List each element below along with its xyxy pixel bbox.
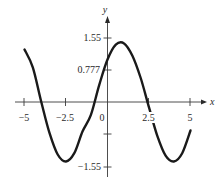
y-tick-label: −1.55 [78, 161, 101, 172]
x-axis-label: x [209, 96, 215, 107]
x-axis-arrow-icon [201, 100, 207, 105]
x-tick-label: 2.5 [142, 112, 155, 123]
x-tick-label: 5 [188, 112, 193, 123]
x-tick-label: 0 [100, 112, 105, 123]
y-tick-label: 1.55 [84, 32, 102, 43]
x-tick-label: −5 [19, 112, 30, 123]
sine-chart: x −5 −2.5 0 5 y 1.55 0.777 −1.55 2.5 [0, 0, 223, 184]
y-axis-label: y [102, 4, 108, 15]
x-tick-label: −2.5 [56, 112, 74, 123]
y-tick-label: 0.777 [78, 64, 101, 75]
y-axis: y 1.55 0.777 −1.55 [78, 4, 112, 177]
y-axis-arrow-icon [105, 16, 110, 23]
